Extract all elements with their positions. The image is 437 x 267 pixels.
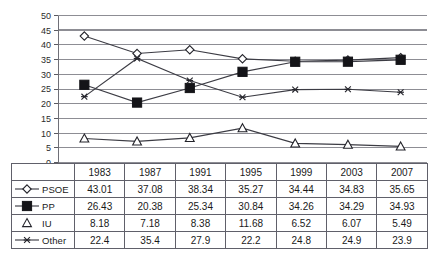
table-cell-value: 34.93 <box>377 198 427 215</box>
table-row: Other22.435.427.922.224.824.923.9 <box>12 232 428 249</box>
table-cell-value: 35.65 <box>377 181 427 198</box>
table-cell-value: 26.43 <box>75 198 125 215</box>
table-row: PP26.4320.3825.3430.8434.2634.2934.93 <box>12 198 428 215</box>
table-cell-value: 37.08 <box>125 181 175 198</box>
data-point-marker-star <box>239 94 246 100</box>
table-cell-value: 34.26 <box>276 198 326 215</box>
table-cell-value: 22.4 <box>75 232 125 249</box>
table-cell-value: 6.52 <box>276 215 326 232</box>
y-tick-label-15: 15 <box>41 114 51 124</box>
table-row: PSOE43.0137.0838.3435.2734.4434.8335.65 <box>12 181 428 198</box>
legend-inner: Other <box>14 232 74 248</box>
series-psoe <box>80 32 405 66</box>
table-corner-cell <box>12 164 75 181</box>
series-line-other <box>84 58 400 97</box>
data-point-marker-open-triangle <box>238 124 247 132</box>
table-cell-value: 5.49 <box>377 215 427 232</box>
column-header-year: 1995 <box>226 164 276 181</box>
data-point-marker-star <box>24 237 31 243</box>
data-series-group <box>80 32 405 150</box>
table-body: PSOE43.0137.0838.3435.2734.4434.8335.65P… <box>12 181 428 249</box>
table-cell-value: 34.44 <box>276 181 326 198</box>
axis-lines <box>54 16 58 163</box>
data-point-marker-filled-square <box>132 98 141 107</box>
series-iu <box>80 124 405 150</box>
data-point-marker-open-diamond <box>23 185 31 193</box>
y-tick-label-50: 50 <box>41 11 51 21</box>
data-table: 1983 1987 1991 1995 1999 2003 2007 PSOE4… <box>11 163 428 249</box>
data-point-marker-star <box>345 86 352 92</box>
legend-series-label: PP <box>42 201 55 212</box>
column-header-year: 1983 <box>75 164 125 181</box>
y-tick-label-35: 35 <box>41 55 51 65</box>
series-line-pp <box>84 60 400 103</box>
data-point-marker-filled-square <box>343 57 352 66</box>
legend-inner: IU <box>14 215 74 231</box>
table-cell-value: 24.9 <box>326 232 376 249</box>
table-cell-value: 8.38 <box>175 215 225 232</box>
data-point-marker-filled-square <box>238 67 247 76</box>
data-point-marker-star <box>81 94 88 100</box>
y-tick-label-30: 30 <box>41 70 51 80</box>
y-tick-label-20: 20 <box>41 99 51 109</box>
legend-inner: PP <box>14 198 74 214</box>
data-point-marker-star <box>186 78 193 84</box>
legend-cell-pp: PP <box>12 198 75 215</box>
legend-cell-other: Other <box>12 232 75 249</box>
column-header-year: 1987 <box>125 164 175 181</box>
data-point-marker-open-triangle <box>23 219 32 227</box>
table-cell-value: 23.9 <box>377 232 427 249</box>
data-point-marker-filled-square <box>396 55 405 64</box>
table-cell-value: 11.68 <box>226 215 276 232</box>
table-cell-value: 7.18 <box>125 215 175 232</box>
table-cell-value: 8.18 <box>75 215 125 232</box>
table-cell-value: 24.8 <box>276 232 326 249</box>
column-header-year: 1991 <box>175 164 225 181</box>
column-header-year: 2003 <box>326 164 376 181</box>
data-point-marker-star <box>292 87 299 93</box>
legend-series-label: Other <box>42 235 66 246</box>
data-point-marker-filled-square <box>185 83 194 92</box>
table-cell-value: 20.38 <box>125 198 175 215</box>
y-tick-label-45: 45 <box>41 26 51 36</box>
legend-inner: PSOE <box>14 181 74 197</box>
y-tick-label-40: 40 <box>41 40 51 50</box>
legend-marker-filled-square-icon <box>14 199 40 213</box>
table-cell-value: 27.9 <box>175 232 225 249</box>
legend-marker-star-icon <box>14 233 40 247</box>
data-point-marker-open-diamond <box>133 49 141 57</box>
y-tick-label-5: 5 <box>46 143 51 153</box>
table-cell-value: 34.29 <box>326 198 376 215</box>
legend-series-label: IU <box>42 218 52 229</box>
data-point-marker-filled-square <box>80 80 89 89</box>
election-results-line-chart-figure: 05101520253035404550 1983 1987 1991 1995… <box>0 0 437 267</box>
y-axis-tick-labels: 05101520253035404550 <box>41 11 51 168</box>
table-cell-value: 34.83 <box>326 181 376 198</box>
data-point-marker-open-diamond <box>238 55 246 63</box>
y-tick-label-10: 10 <box>41 129 51 139</box>
column-header-year: 1999 <box>276 164 326 181</box>
legend-cell-psoe: PSOE <box>12 181 75 198</box>
table-cell-value: 30.84 <box>226 198 276 215</box>
table-cell-value: 38.34 <box>175 181 225 198</box>
data-point-marker-filled-square <box>291 57 300 66</box>
table-cell-value: 35.27 <box>226 181 276 198</box>
legend-cell-iu: IU <box>12 215 75 232</box>
legend-marker-open-triangle-icon <box>14 216 40 230</box>
table-cell-value: 35.4 <box>125 232 175 249</box>
table-cell-value: 6.07 <box>326 215 376 232</box>
table-cell-value: 22.2 <box>226 232 276 249</box>
table-cell-value: 25.34 <box>175 198 225 215</box>
data-point-marker-open-diamond <box>186 46 194 54</box>
legend-series-label: PSOE <box>42 184 69 195</box>
table-cell-value: 43.01 <box>75 181 125 198</box>
table-header-row: 1983 1987 1991 1995 1999 2003 2007 <box>12 164 428 181</box>
plot-area: 05101520253035404550 <box>0 0 437 172</box>
legend-marker-open-diamond-icon <box>14 182 40 196</box>
y-tick-label-25: 25 <box>41 84 51 94</box>
data-point-marker-filled-square <box>22 201 31 210</box>
data-point-marker-star <box>397 89 404 95</box>
plot-svg: 05101520253035404550 <box>0 0 437 172</box>
data-point-marker-open-diamond <box>80 32 88 40</box>
table-row: IU8.187.188.3811.686.526.075.49 <box>12 215 428 232</box>
